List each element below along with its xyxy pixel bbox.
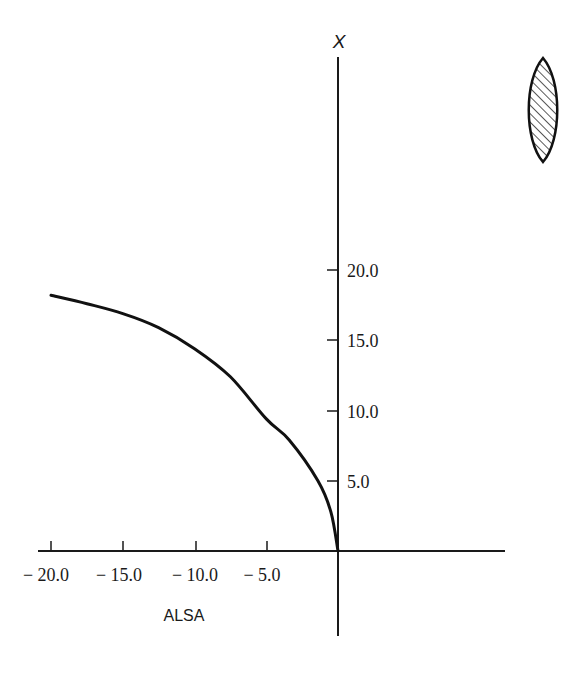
- x-tick-label: − 10.0: [172, 565, 218, 585]
- y-tick-label: 15.0: [347, 331, 379, 351]
- chart-canvas: X ALSA 5.0 10.0 15.0 20.0 − 20.0 − 15.0 …: [0, 0, 584, 674]
- y-tick-label: 5.0: [347, 472, 370, 492]
- y-tick-label: 20.0: [347, 261, 379, 281]
- y-axis-label: X: [332, 31, 347, 52]
- x-tick-label: − 15.0: [96, 565, 142, 585]
- hatched-lens-icon: [529, 58, 558, 162]
- x-tick-label: − 5.0: [243, 565, 280, 585]
- x-tick-label: − 20.0: [23, 565, 69, 585]
- x-ticks: − 20.0 − 15.0 − 10.0 − 5.0: [23, 541, 281, 585]
- x-axis-label: ALSA: [164, 607, 205, 624]
- data-curve: [51, 295, 338, 551]
- y-tick-label: 10.0: [347, 402, 379, 422]
- y-ticks: 5.0 10.0 15.0 20.0: [327, 261, 379, 492]
